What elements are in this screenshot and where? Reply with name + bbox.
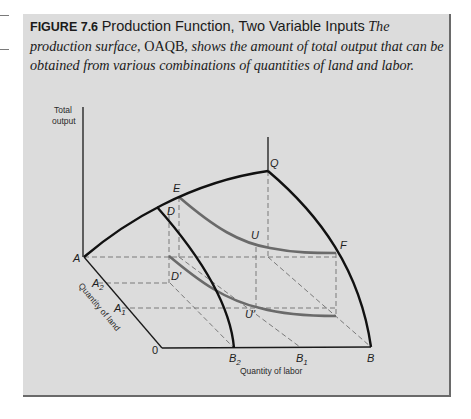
axes — [83, 107, 371, 348]
isoquant-EUF — [179, 197, 336, 253]
label-B: B — [367, 352, 374, 364]
point-labels: A A2 A1 0 B2 B1 B Q E D D' U U' F — [72, 157, 374, 367]
label-B1: B1 — [296, 352, 308, 367]
label-D-prime: D' — [171, 270, 182, 282]
label-U: U — [251, 229, 259, 241]
edge-QB — [268, 171, 371, 347]
labor-axis — [162, 347, 371, 348]
label-B2: B2 — [229, 352, 241, 367]
y-axis-label-line2: output — [52, 116, 76, 126]
label-Q: Q — [270, 157, 279, 169]
labor-axis-label: Quantity of labor — [240, 366, 303, 376]
label-F: F — [340, 239, 348, 251]
label-U-prime: U' — [245, 308, 256, 320]
y-axis-label-line1: Total — [54, 105, 72, 115]
production-surface-diagram: A A2 A1 0 B2 B1 B Q E D D' U U' F Total … — [0, 0, 471, 419]
label-origin: 0 — [152, 344, 158, 356]
surface-edges — [84, 171, 371, 348]
label-D: D — [167, 205, 175, 217]
label-A: A — [72, 252, 80, 264]
axis-labels: Total output Quantity of land Quantity o… — [52, 105, 303, 376]
label-E: E — [173, 182, 181, 194]
dashed-guides — [84, 171, 371, 348]
